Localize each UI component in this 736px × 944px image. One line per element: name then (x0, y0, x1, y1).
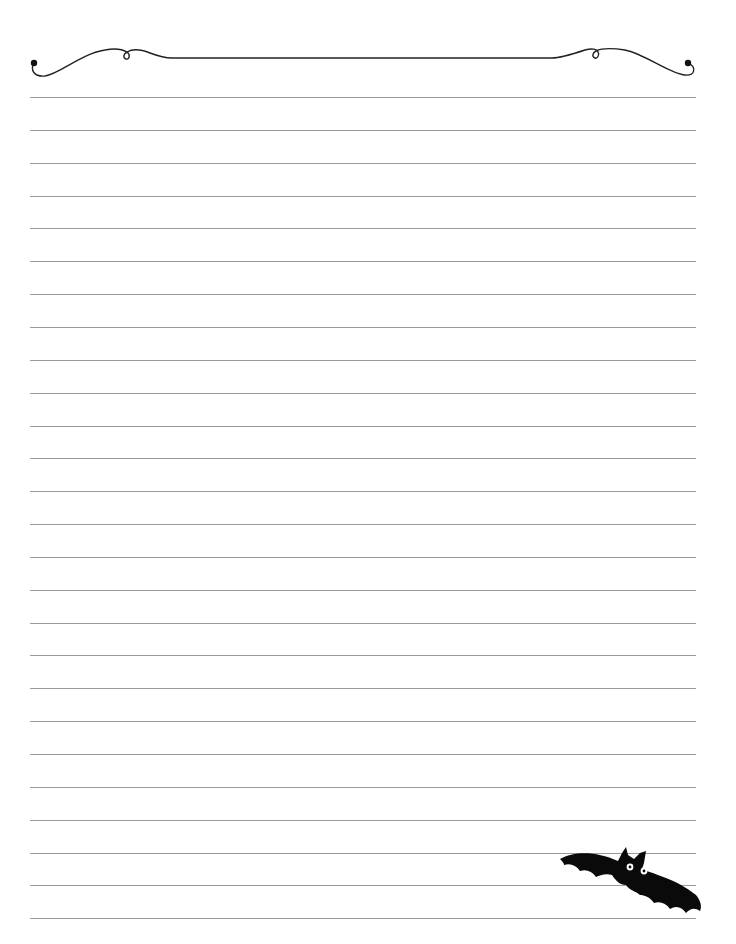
ruled-line (30, 261, 696, 262)
ruled-line (30, 294, 696, 295)
ruled-line (30, 590, 696, 591)
ruled-line (30, 688, 696, 689)
ruled-line (30, 754, 696, 755)
bat-icon (556, 845, 706, 915)
ruled-line (30, 426, 696, 427)
ruled-line (30, 557, 696, 558)
ruled-line (30, 228, 696, 229)
ruled-lines (0, 0, 736, 944)
stationery-page (0, 0, 736, 944)
ruled-line (30, 196, 696, 197)
ruled-line (30, 327, 696, 328)
ruled-line (30, 655, 696, 656)
ruled-line (30, 524, 696, 525)
ruled-line (30, 360, 696, 361)
ruled-line (30, 491, 696, 492)
ruled-line (30, 787, 696, 788)
ruled-line (30, 820, 696, 821)
ruled-line (30, 393, 696, 394)
ruled-line (30, 458, 696, 459)
ruled-line (30, 97, 696, 98)
ruled-line (30, 623, 696, 624)
ruled-line (30, 130, 696, 131)
ruled-line (30, 918, 696, 919)
ruled-line (30, 163, 696, 164)
ruled-line (30, 721, 696, 722)
